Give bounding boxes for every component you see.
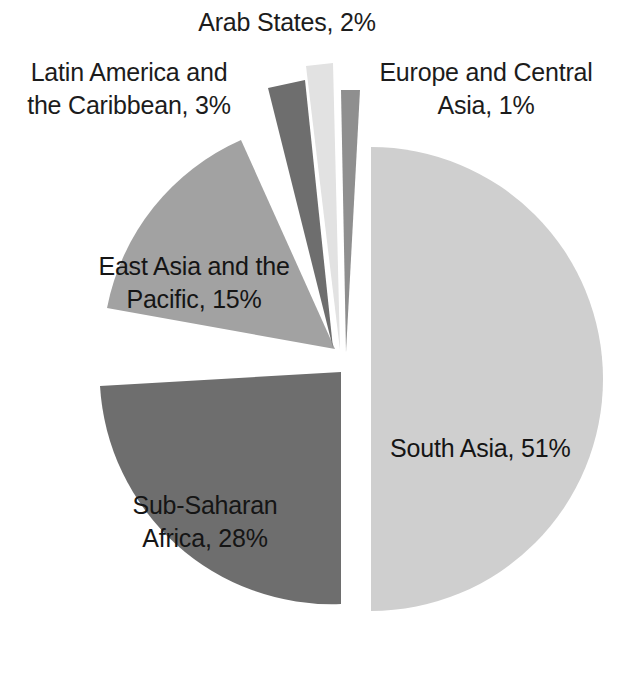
pie-slice-south-asia[interactable] (371, 147, 603, 611)
pie-label-south-asia: South Asia, 51% (390, 432, 616, 465)
pie-label-sub-saharan-africa: Sub-Saharan Africa, 28% (95, 489, 315, 554)
pie-label-latin-america-caribbean: Latin America and the Caribbean, 3% (4, 56, 254, 121)
pie-label-arab-states: Arab States, 2% (152, 6, 422, 39)
pie-chart: Latin America and the Caribbean, 3% Arab… (0, 0, 620, 678)
pie-label-europe-central-asia: Europe and Central Asia, 1% (358, 56, 614, 121)
pie-label-east-asia-pacific: East Asia and the Pacific, 15% (78, 250, 310, 315)
pie-slice-europe-central-asia[interactable] (341, 90, 360, 352)
